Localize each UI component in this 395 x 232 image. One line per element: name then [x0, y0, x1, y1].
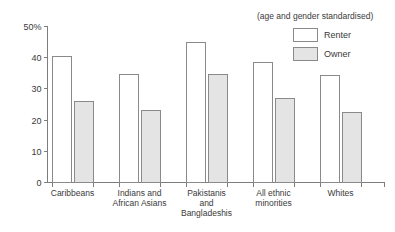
bar-renter-4 [321, 76, 340, 183]
y-tick-label: 40 [31, 53, 41, 63]
category-label-0: Caribbeans [51, 188, 94, 198]
category-label-2: and [199, 198, 213, 208]
category-label-1: African Asians [113, 198, 167, 208]
category-label-1: Indians and [118, 188, 162, 198]
bar-renter-3 [254, 63, 273, 183]
x-axis [48, 183, 386, 187]
y-tick-label: 30 [31, 84, 41, 94]
category-labels: CaribbeansIndians andAfrican AsiansPakis… [51, 188, 354, 218]
bar-owner-3 [276, 99, 295, 183]
legend-label-owner: Owner [324, 49, 351, 59]
y-tick-label: 10 [31, 147, 41, 157]
y-tick-label: 0 [36, 178, 41, 188]
bar-renter-0 [53, 57, 72, 183]
y-axis-tick-marks [44, 27, 48, 183]
bars-layer [53, 43, 362, 183]
bar-renter-2 [187, 43, 206, 183]
category-label-4: Whites [328, 188, 354, 198]
chart-canvas: 01020304050% CaribbeansIndians andAfrica… [0, 0, 395, 232]
bar-owner-2 [209, 75, 228, 183]
bar-chart: 01020304050% CaribbeansIndians andAfrica… [0, 0, 395, 232]
legend-swatch-owner [294, 48, 318, 61]
legend-label-renter: Renter [324, 30, 351, 40]
chart-legend: RenterOwner [294, 29, 352, 61]
category-label-3: All ethnic [256, 188, 291, 198]
chart-annotation: (age and gender standardised) [257, 11, 373, 21]
y-axis-tick-labels: 01020304050% [23, 22, 41, 188]
bar-owner-0 [75, 102, 94, 183]
annotation-label: (age and gender standardised) [257, 11, 373, 21]
y-tick-label: 20 [31, 116, 41, 126]
x-axis-tick-marks [53, 183, 385, 187]
category-label-2: Pakistanis [187, 188, 226, 198]
y-axis [44, 26, 48, 183]
bar-owner-1 [142, 111, 161, 183]
y-tick-label: 50% [23, 22, 41, 32]
bar-renter-1 [120, 75, 139, 183]
legend-swatch-renter [294, 29, 318, 42]
category-label-2: Bangladeshis [181, 208, 232, 218]
bar-owner-4 [343, 113, 362, 183]
category-label-3: minorities [255, 198, 291, 208]
